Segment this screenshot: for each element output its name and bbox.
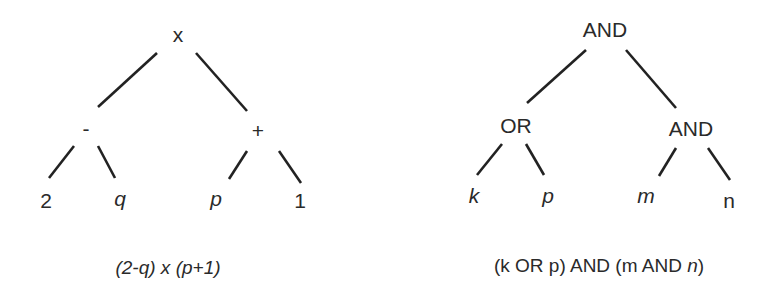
edge-minus-2	[49, 146, 74, 178]
leaf-p: p	[542, 185, 554, 206]
edge-or-k	[477, 144, 502, 175]
edge-plus-1	[279, 151, 301, 183]
leaf-p: p	[210, 188, 222, 209]
leaf-2: 2	[40, 190, 52, 211]
caption-boolean: (k OR p) AND (m AND n)	[494, 256, 704, 275]
edge-x-plus	[196, 53, 247, 111]
node-plus: +	[252, 120, 264, 141]
node-root-and: AND	[583, 19, 627, 40]
edge-x-minus	[98, 53, 157, 107]
leaf-k: k	[469, 185, 480, 206]
node-root-times: x	[173, 24, 184, 45]
edge-and-n	[708, 148, 730, 180]
leaf-1: 1	[294, 190, 306, 211]
edge-minus-q	[98, 146, 115, 178]
leaf-n: n	[723, 190, 735, 211]
edge-or-p	[526, 144, 544, 175]
leaf-q: q	[114, 188, 126, 209]
edge-and-m	[659, 148, 676, 176]
edge-plus-p	[229, 151, 247, 179]
leaf-m: m	[637, 185, 655, 206]
node-or: OR	[500, 115, 532, 136]
caption-boolean-n: n	[687, 255, 698, 276]
node-and: AND	[669, 118, 713, 139]
edge-and-and	[626, 50, 676, 108]
diagram-canvas: x - + 2 q p 1 (2-q) x (p+1) AND OR AND k…	[0, 0, 775, 300]
caption-arithmetic: (2-q) x (p+1)	[115, 258, 220, 277]
edge-and-or	[527, 50, 586, 103]
node-minus: -	[83, 118, 90, 139]
caption-boolean-main: (k OR p) AND (m AND	[494, 255, 687, 276]
caption-boolean-close: )	[698, 255, 704, 276]
